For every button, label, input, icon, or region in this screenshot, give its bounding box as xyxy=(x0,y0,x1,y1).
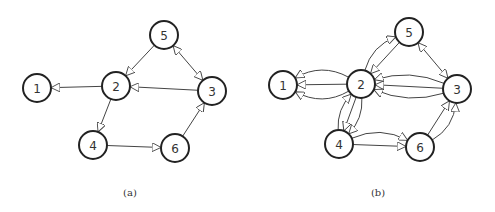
node-1: 1 xyxy=(23,74,51,102)
node-3: 3 xyxy=(443,75,471,103)
edge-5-to-3 xyxy=(173,46,203,81)
node-5: 5 xyxy=(395,18,423,46)
panel-b-graph: 123456 (b) xyxy=(269,18,471,198)
node-4: 4 xyxy=(325,130,353,158)
edge-5-to-3 xyxy=(418,43,448,79)
panel-a-edges xyxy=(51,45,204,147)
node-label: 1 xyxy=(33,82,41,96)
edge-2-to-4 xyxy=(344,97,356,131)
edge-3-to-2 xyxy=(130,87,198,91)
edge-2-to-5 xyxy=(365,37,396,71)
edge-2-to-4 xyxy=(349,98,362,134)
edge-2-to-1 xyxy=(51,86,102,87)
edge-6-to-3 xyxy=(183,103,205,137)
node-label: 5 xyxy=(405,26,413,40)
graph-diagram: 123456 (a) 123456 (b) xyxy=(0,0,495,212)
edge-2-to-1 xyxy=(297,84,347,85)
panel-a-nodes: 123456 xyxy=(23,21,226,162)
node-label: 1 xyxy=(279,79,287,93)
node-label: 6 xyxy=(171,142,179,156)
edge-6-to-3 xyxy=(428,101,450,135)
node-2: 2 xyxy=(102,72,130,100)
node-label: 2 xyxy=(112,80,120,94)
edge-5-to-2 xyxy=(126,45,155,76)
edge-3-to-2 xyxy=(375,85,443,89)
edge-2-to-1 xyxy=(295,91,349,99)
node-label: 5 xyxy=(160,29,168,43)
node-2: 2 xyxy=(347,70,375,98)
edge-5-to-2 xyxy=(370,42,399,73)
edge-3-to-2 xyxy=(374,75,444,83)
node-6: 6 xyxy=(161,134,189,162)
panel-b-nodes: 123456 xyxy=(269,18,471,161)
edge-4-to-6 xyxy=(353,145,406,147)
node-label: 3 xyxy=(453,83,461,97)
panel-a-graph: 123456 (a) xyxy=(23,21,226,198)
node-label: 4 xyxy=(335,138,343,152)
node-label: 4 xyxy=(89,139,97,153)
node-6: 6 xyxy=(406,133,434,161)
node-5: 5 xyxy=(150,21,178,49)
node-label: 6 xyxy=(416,141,424,155)
panel-b-edges xyxy=(295,37,456,147)
node-label: 3 xyxy=(208,85,216,99)
node-4: 4 xyxy=(79,131,107,159)
node-3: 3 xyxy=(198,77,226,105)
edge-4-to-6 xyxy=(107,146,161,148)
edge-4-to-6 xyxy=(352,132,408,140)
node-1: 1 xyxy=(269,71,297,99)
edge-2-to-4 xyxy=(98,99,111,132)
panel-b-caption: (b) xyxy=(371,187,385,198)
edge-4-to-2 xyxy=(338,94,351,130)
panel-a-caption: (a) xyxy=(123,187,137,198)
edge-2-to-1 xyxy=(295,70,349,78)
edge-3-to-2 xyxy=(374,90,444,98)
node-label: 2 xyxy=(357,78,365,92)
